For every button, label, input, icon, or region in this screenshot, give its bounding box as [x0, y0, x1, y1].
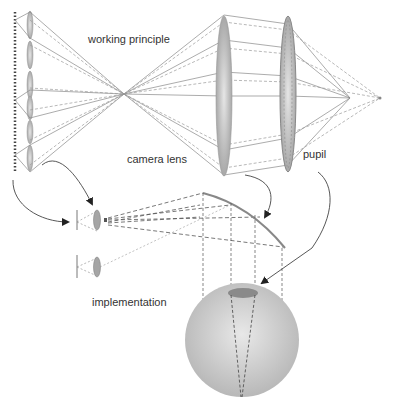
working-principle-label: working principle [88, 33, 170, 45]
pupil-label: pupil [303, 148, 326, 160]
focal-point [379, 97, 382, 100]
eye-sphere [185, 283, 299, 397]
implementation-label: implementation [92, 296, 167, 308]
implementation-lens-bottom [77, 255, 101, 278]
curved-arrows [13, 161, 330, 283]
implementation-lens-top [77, 210, 107, 231]
focal-rays [288, 24, 350, 165]
camera-lens-label: camera lens [127, 153, 187, 165]
curved-screen [203, 193, 285, 248]
lens-to-pupil-rays [224, 15, 288, 175]
camera-lens [216, 16, 232, 176]
pupil [280, 16, 296, 172]
optics-diagram [0, 0, 398, 408]
projection-rays-light [100, 205, 230, 267]
focal-rays-dashed [288, 30, 380, 158]
eye-pupil [228, 288, 258, 298]
